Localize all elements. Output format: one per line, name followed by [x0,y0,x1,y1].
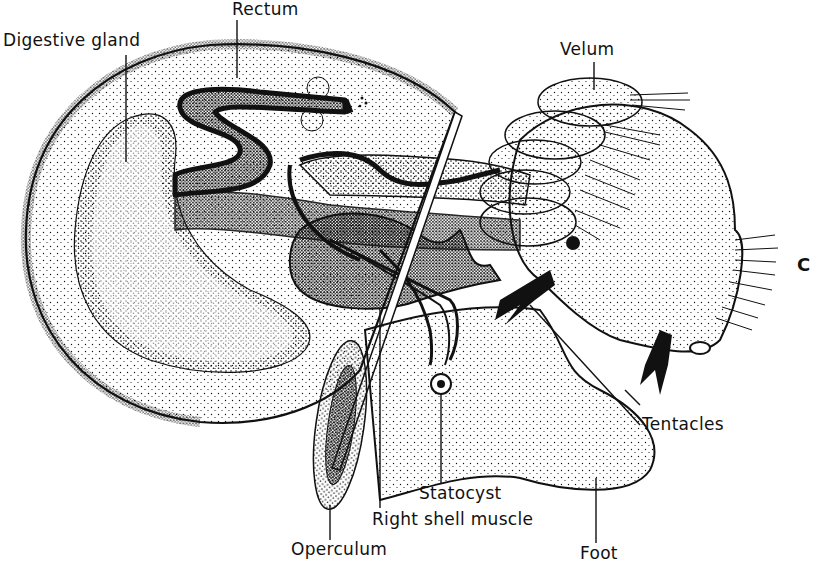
label-tentacles: Tentacles [642,416,724,433]
statocyst-organ [431,374,451,394]
diagram-stage: Digestive gland Rectum Velum Tentacles S… [0,0,820,565]
plate-letter: C [797,254,810,275]
leader-tentacles-2 [625,390,640,405]
label-rectum: Rectum [232,1,299,18]
label-operculum: Operculum [291,541,387,558]
veliger-illustration [0,0,820,565]
label-statocyst: Statocyst [419,485,502,502]
label-velum: Velum [560,41,614,58]
label-digestive-gland: Digestive gland [3,32,140,49]
label-foot: Foot [580,545,618,562]
label-right-shell-muscle: Right shell muscle [372,511,533,528]
